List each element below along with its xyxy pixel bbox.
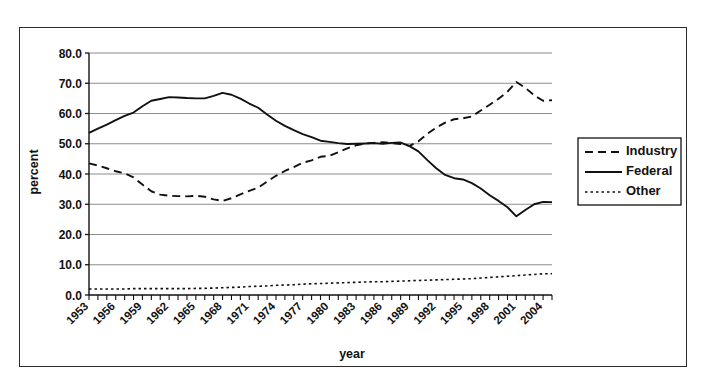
legend-label-other: Other <box>626 183 661 198</box>
x-tick-label: 1962 <box>144 300 171 327</box>
y-tick-label: 20.0 <box>59 228 83 242</box>
series-line-federal <box>89 93 552 216</box>
x-tick-label: 2001 <box>491 300 518 327</box>
x-tick-label: 1992 <box>411 300 438 327</box>
x-tick-label: 1956 <box>91 300 118 327</box>
x-tick-label: 1983 <box>331 300 358 327</box>
x-tick-labels: 1953195619591962196519681971197419771980… <box>64 300 545 327</box>
y-tick-label: 30.0 <box>59 198 83 212</box>
y-tick-label: 60.0 <box>59 107 83 121</box>
y-tick-label: 40.0 <box>59 168 83 182</box>
x-tick-marks <box>89 295 552 300</box>
y-tick-label: 70.0 <box>59 77 83 91</box>
y-tick-label: 80.0 <box>59 47 83 61</box>
chart-screenshot: 0.010.020.030.040.050.060.070.080.0 1953… <box>0 0 707 385</box>
gridlines <box>89 53 552 265</box>
y-tick-label: 10.0 <box>59 258 83 272</box>
x-tick-label: 1959 <box>117 300 144 327</box>
x-axis-title: year <box>339 347 365 361</box>
x-tick-label: 1974 <box>251 300 278 327</box>
legend: IndustryFederalOther <box>578 138 681 205</box>
legend-label-industry: Industry <box>626 143 678 158</box>
x-tick-label: 1998 <box>465 300 492 327</box>
x-tick-label: 1995 <box>438 300 465 327</box>
x-tick-label: 1989 <box>384 300 411 327</box>
x-tick-label: 1986 <box>358 300 385 327</box>
x-tick-label: 1968 <box>197 300 224 327</box>
line-chart: 0.010.020.030.040.050.060.070.080.0 1953… <box>0 0 707 385</box>
x-tick-label: 1980 <box>304 300 331 327</box>
x-tick-label: 1965 <box>171 300 198 327</box>
x-tick-label: 1953 <box>64 300 91 327</box>
y-axis-title: percent <box>27 149 41 195</box>
y-tick-label: 0.0 <box>65 289 82 303</box>
series-line-other <box>89 274 552 289</box>
y-tick-label: 50.0 <box>59 137 83 151</box>
legend-label-federal: Federal <box>626 163 672 178</box>
x-tick-label: 2004 <box>518 300 545 327</box>
x-tick-label: 1977 <box>278 300 305 327</box>
y-tick-labels: 0.010.020.030.040.050.060.070.080.0 <box>59 47 89 303</box>
x-tick-label: 1971 <box>224 300 251 327</box>
